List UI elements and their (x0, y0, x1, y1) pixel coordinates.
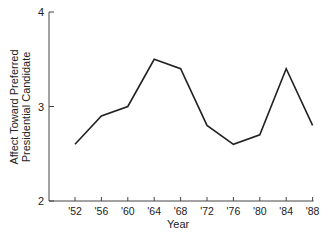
line-chart: 234'52'56'60'64'68'72'76'80'84'88 Affect… (0, 0, 328, 235)
x-tick-label: '64 (147, 205, 161, 217)
x-tick-label: '84 (279, 205, 293, 217)
plot-area: 234'52'56'60'64'68'72'76'80'84'88 (0, 0, 328, 235)
x-tick-label: '72 (200, 205, 214, 217)
x-tick-label: '80 (253, 205, 267, 217)
data-series-line (75, 59, 313, 144)
y-axis-label-line-1: Affect Toward Preferred (8, 49, 20, 164)
y-axis-label: Affect Toward Preferred Presidential Can… (2, 12, 38, 202)
x-tick-label: '52 (68, 205, 82, 217)
x-axis-label: Year (167, 218, 189, 230)
x-tick-label: '76 (227, 205, 241, 217)
x-tick-label: '56 (95, 205, 109, 217)
y-tick-label: 2 (38, 195, 44, 207)
y-axis-label-line-2: Presidential Candidate (20, 49, 32, 164)
x-tick-label: '88 (306, 205, 320, 217)
x-tick-label: '68 (174, 205, 188, 217)
y-tick-label: 4 (38, 6, 44, 18)
y-tick-label: 3 (38, 101, 44, 113)
x-tick-label: '60 (121, 205, 135, 217)
